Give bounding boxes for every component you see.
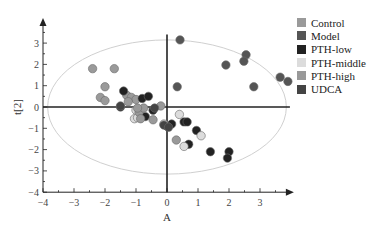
data-point-control bbox=[88, 64, 96, 72]
data-point-pth-middle bbox=[197, 132, 205, 140]
legend-item-model: Model bbox=[297, 29, 366, 42]
data-point-control bbox=[101, 96, 109, 104]
legend-item-pth-middle: PTH-middle bbox=[297, 56, 366, 69]
data-point-model bbox=[222, 61, 230, 69]
data-point-model bbox=[284, 77, 292, 85]
y-tick-label: 2 bbox=[34, 59, 39, 70]
legend-item-control: Control bbox=[297, 16, 366, 29]
x-tick-label: 1 bbox=[196, 197, 201, 208]
data-point-udca bbox=[164, 123, 172, 131]
legend: Control Model PTH-low PTH-middle PTH-hig… bbox=[297, 16, 366, 96]
x-tick-label: −4 bbox=[38, 197, 49, 208]
data-point-model bbox=[240, 57, 248, 65]
data-point-pth-high bbox=[133, 104, 141, 112]
legend-label: Control bbox=[311, 17, 345, 29]
swatch-pth-low bbox=[297, 45, 306, 54]
legend-label: PTH-high bbox=[311, 70, 355, 82]
y-axis-arrow-icon bbox=[40, 18, 47, 26]
data-point-pth-high bbox=[149, 116, 157, 124]
y-axis-label: t[2] bbox=[11, 99, 23, 115]
legend-label: UDCA bbox=[311, 83, 342, 95]
data-point-pth-high bbox=[172, 136, 180, 144]
x-tick-label: 0 bbox=[165, 197, 170, 208]
swatch-pth-high bbox=[297, 71, 306, 80]
data-point-udca bbox=[150, 104, 158, 112]
data-point-control bbox=[101, 83, 109, 91]
y-tick-label: 0 bbox=[34, 102, 39, 113]
legend-item-udca: UDCA bbox=[297, 82, 366, 95]
legend-item-pth-low: PTH-low bbox=[297, 43, 366, 56]
x-tick-label: −2 bbox=[100, 197, 111, 208]
x-tick-label: −3 bbox=[69, 197, 80, 208]
legend-label: PTH-low bbox=[311, 43, 352, 55]
x-tick-label: −1 bbox=[131, 197, 142, 208]
swatch-udca bbox=[297, 85, 306, 94]
data-point-model bbox=[176, 36, 184, 44]
swatch-pth-middle bbox=[297, 58, 306, 67]
data-point-pth-low bbox=[183, 118, 191, 126]
x-axis-label: A bbox=[163, 211, 171, 223]
y-tick-label: −3 bbox=[28, 165, 39, 176]
data-point-control bbox=[124, 97, 132, 105]
x-tick-label: 3 bbox=[258, 197, 263, 208]
data-point-pth-low bbox=[119, 87, 127, 95]
y-tick-label: −1 bbox=[28, 123, 39, 134]
data-point-model bbox=[250, 83, 258, 91]
data-point-pth-middle bbox=[180, 142, 188, 150]
data-point-pth-high bbox=[136, 115, 144, 123]
y-tick-label: −2 bbox=[28, 144, 39, 155]
data-point-pth-low bbox=[223, 154, 231, 162]
data-point-model bbox=[173, 83, 181, 91]
y-tick-label: 3 bbox=[34, 38, 39, 49]
data-point-pth-middle bbox=[175, 110, 183, 118]
data-point-pth-low bbox=[206, 148, 214, 156]
data-point-pth-low bbox=[144, 92, 152, 100]
legend-label: PTH-middle bbox=[311, 57, 366, 69]
x-axis-arrow-icon bbox=[286, 189, 294, 196]
legend-label: Model bbox=[311, 30, 340, 42]
swatch-model bbox=[297, 31, 306, 40]
x-tick-label: 2 bbox=[227, 197, 232, 208]
y-tick-label: −4 bbox=[28, 187, 39, 198]
y-tick-label: 1 bbox=[34, 80, 39, 91]
data-point-udca bbox=[116, 102, 124, 110]
legend-item-pth-high: PTH-high bbox=[297, 69, 366, 82]
data-point-model bbox=[276, 73, 284, 81]
data-point-control bbox=[110, 64, 118, 72]
swatch-control bbox=[297, 18, 306, 27]
